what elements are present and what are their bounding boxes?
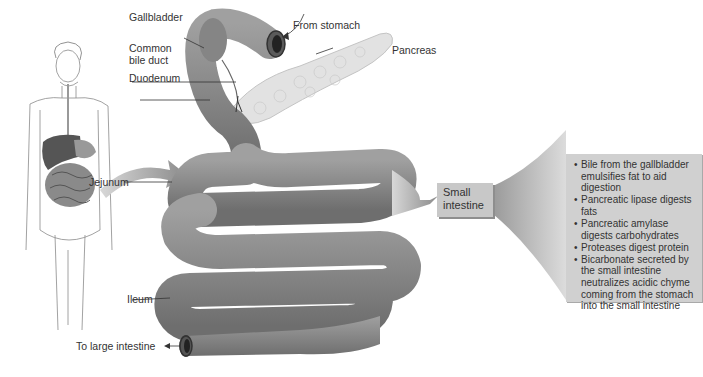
info-item: Pancreatic lipase digests fats <box>574 194 698 217</box>
info-item: Bicarbonate secreted by the small intest… <box>574 254 698 312</box>
label-ileum: Ileum <box>127 293 153 305</box>
gallbladder <box>199 18 227 62</box>
digestion-info-box: Bile from the gallbladder emulsifies fat… <box>566 154 702 302</box>
info-list: Bile from the gallbladder emulsifies fat… <box>574 159 698 312</box>
label-gallbladder: Gallbladder <box>129 11 183 23</box>
info-item: Proteases digest protein <box>574 242 698 254</box>
small-intestine-box: Small intestine <box>437 183 493 217</box>
label-from-stomach: From stomach <box>293 19 360 31</box>
label-jejunum: Jejunum <box>89 176 129 188</box>
info-item: Pancreatic amylase digests carbohydrates <box>574 218 698 241</box>
stomach <box>74 140 96 159</box>
label-duodenum: Duodenum <box>129 72 180 84</box>
label-pancreas: Pancreas <box>392 44 436 56</box>
label-to-large-intestine: To large intestine <box>76 340 155 352</box>
small-intestine-line1: Small <box>443 186 493 199</box>
small-intestine-line2: intestine <box>443 199 493 212</box>
intestines-small-figure <box>45 163 95 207</box>
small-intestine-coils <box>171 160 404 326</box>
fan-connector <box>493 130 566 300</box>
digestive-diagram: Gallbladder Common bile duct Duodenum Fr… <box>0 0 703 377</box>
label-common-bile-duct: Common bile duct <box>129 42 189 66</box>
info-item: Bile from the gallbladder emulsifies fat… <box>574 159 698 194</box>
